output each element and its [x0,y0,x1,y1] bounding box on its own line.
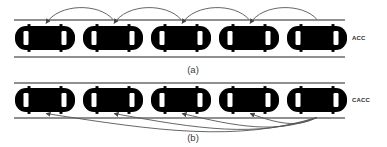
rear-window [228,93,233,107]
windshield [334,31,339,45]
panel-b-cars [15,86,347,114]
rear-window [24,31,29,45]
panel-a-cars [15,24,347,52]
scheme-label-cacc: CACC [352,97,371,103]
windshield [62,93,67,107]
scheme-label-acc: ACC [352,35,366,41]
windshield [198,93,203,107]
panel-caption-a: (a) [187,64,199,75]
rear-window [160,93,165,107]
vehicle [83,24,143,52]
vehicle [219,24,279,52]
vehicle [151,86,211,114]
acc-cacc-diagram: ACC (a) CACC (b) [0,0,387,147]
windshield [62,31,67,45]
vehicle [219,86,279,114]
figure-container: ACC (a) CACC (b) [0,0,387,147]
rear-window [296,93,301,107]
rear-window [92,93,97,107]
windshield [198,31,203,45]
rear-window [296,31,301,45]
rear-window [92,31,97,45]
rear-window [228,31,233,45]
vehicle [15,24,75,52]
vehicle [15,86,75,114]
windshield [266,31,271,45]
vehicle [287,24,347,52]
panel-caption-b: (b) [187,132,199,143]
rear-window [160,31,165,45]
vehicle [151,24,211,52]
windshield [130,31,135,45]
windshield [266,93,271,107]
rear-window [24,93,29,107]
windshield [130,93,135,107]
vehicle [287,86,347,114]
windshield [334,93,339,107]
vehicle [83,86,143,114]
